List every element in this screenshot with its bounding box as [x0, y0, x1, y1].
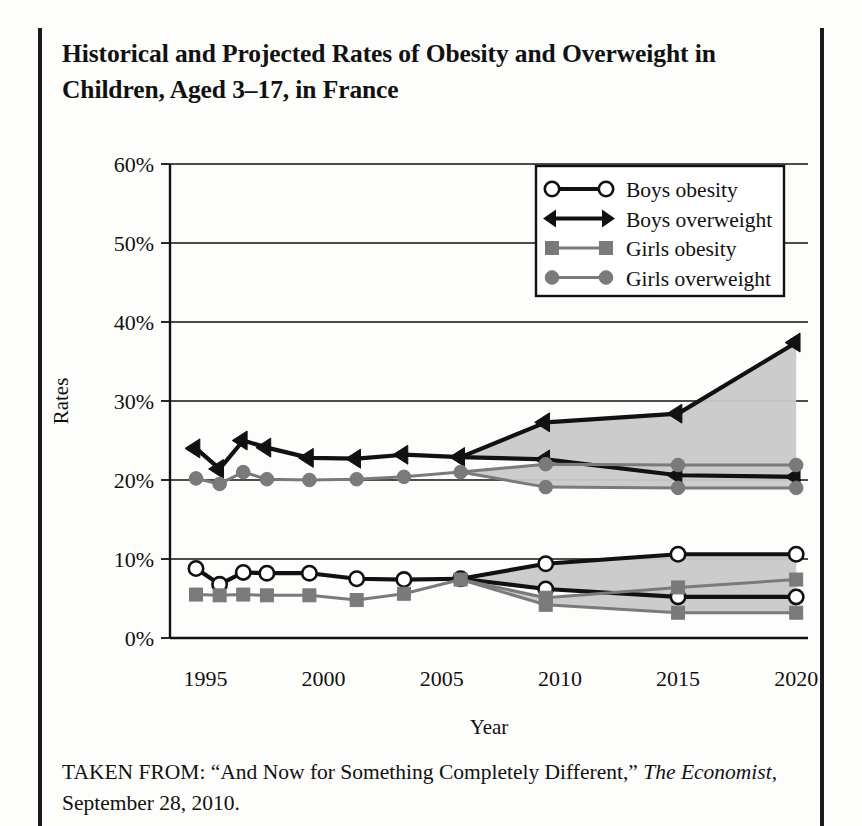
data-point-marker: [260, 566, 274, 580]
figure-title: Historical and Projected Rates of Obesit…: [62, 36, 802, 108]
x-tick-label: 2015: [656, 666, 700, 691]
data-point-marker: [260, 589, 273, 602]
data-point-marker: [789, 590, 803, 604]
data-point-marker: [450, 448, 465, 467]
data-point-marker: [260, 472, 274, 486]
x-axis-title: Year: [470, 715, 509, 739]
legend-label: Girls obesity: [626, 237, 737, 261]
data-point-marker: [599, 271, 613, 285]
data-point-marker: [790, 606, 803, 619]
data-point-marker: [789, 547, 803, 561]
source-caption: TAKEN FROM: “And Now for Something Compl…: [62, 757, 814, 818]
data-point-marker: [346, 449, 361, 468]
data-point-marker: [600, 242, 613, 255]
data-point-marker: [237, 588, 250, 601]
series-line-historical: [196, 472, 461, 484]
caption-publication: The Economist: [643, 760, 771, 784]
data-point-marker: [303, 473, 317, 487]
data-point-marker: [671, 458, 685, 472]
data-point-marker: [789, 458, 803, 472]
data-point-marker: [213, 589, 226, 602]
data-point-marker: [350, 594, 363, 607]
figure-page: Historical and Projected Rates of Obesit…: [0, 0, 862, 826]
data-point-marker: [672, 606, 685, 619]
series-line-historical: [196, 580, 461, 601]
y-tick-label: 10%: [114, 547, 154, 572]
data-point-marker: [539, 557, 553, 571]
y-tick-label: 40%: [114, 310, 154, 335]
chart-legend: Boys obesityBoys overweightGirls obesity…: [536, 166, 784, 296]
legend-label: Boys overweight: [626, 208, 772, 232]
data-point-marker: [397, 587, 410, 600]
y-tick-label: 50%: [114, 231, 154, 256]
legend-label: Girls overweight: [626, 267, 771, 291]
data-point-marker: [189, 561, 203, 575]
caption-prefix: TAKEN FROM: “And Now for Something Compl…: [62, 760, 643, 784]
data-point-marker: [599, 182, 613, 196]
data-point-marker: [672, 581, 685, 594]
data-point-marker: [302, 566, 316, 580]
data-point-marker: [350, 472, 364, 486]
data-point-marker: [789, 481, 803, 495]
data-point-marker: [397, 572, 411, 586]
line-chart: 0%10%20%30%40%50%60%19952000200520102015…: [38, 130, 824, 745]
chart-area: 0%10%20%30%40%50%60%19952000200520102015…: [38, 130, 824, 745]
y-axis-title: Rates: [49, 378, 73, 425]
data-point-marker: [189, 588, 202, 601]
data-point-marker: [298, 448, 313, 467]
data-point-marker: [213, 477, 227, 491]
y-tick-label: 0%: [125, 626, 154, 651]
series-line-historical: [196, 441, 461, 469]
data-point-marker: [189, 472, 203, 486]
data-point-marker: [236, 565, 250, 579]
data-point-marker: [397, 470, 411, 484]
data-point-marker: [236, 465, 250, 479]
x-tick-label: 2020: [774, 666, 818, 691]
data-point-marker: [303, 589, 316, 602]
data-point-marker: [545, 271, 559, 285]
data-point-marker: [185, 439, 200, 458]
x-tick-label: 2010: [538, 666, 582, 691]
data-point-marker: [454, 573, 467, 586]
data-point-marker: [546, 242, 559, 255]
data-point-marker: [539, 598, 552, 611]
data-point-marker: [539, 480, 553, 494]
x-tick-label: 1995: [183, 666, 227, 691]
x-tick-label: 2000: [302, 666, 346, 691]
data-point-marker: [393, 445, 408, 464]
legend-label: Boys obesity: [626, 178, 738, 202]
y-tick-label: 20%: [114, 468, 154, 493]
x-tick-label: 2005: [420, 666, 464, 691]
data-point-marker: [256, 438, 271, 457]
data-point-marker: [539, 457, 553, 471]
y-tick-label: 60%: [114, 152, 154, 177]
data-point-marker: [349, 572, 363, 586]
data-point-marker: [454, 465, 468, 479]
data-point-marker: [671, 547, 685, 561]
y-tick-label: 30%: [114, 389, 154, 414]
data-point-marker: [790, 573, 803, 586]
data-point-marker: [545, 182, 559, 196]
data-point-marker: [671, 481, 685, 495]
